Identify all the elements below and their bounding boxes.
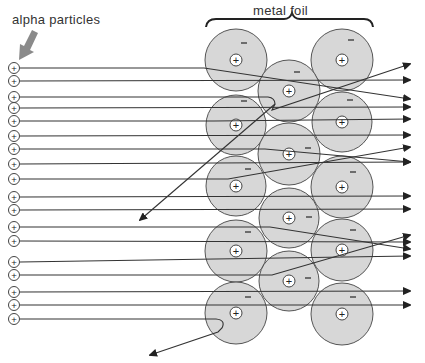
alpha-particle-icon: +: [9, 92, 20, 103]
atom: +: [311, 283, 373, 345]
atom: +: [206, 95, 266, 155]
svg-text:+: +: [286, 85, 292, 97]
atom: +: [206, 156, 266, 216]
svg-text:+: +: [11, 76, 17, 87]
svg-text:+: +: [11, 116, 17, 127]
svg-text:+: +: [11, 159, 17, 170]
nucleus-icon: +: [283, 85, 295, 97]
alpha-particle-icon: +: [9, 103, 20, 114]
rutherford-scattering-diagram: ++++++++++++++ ++++++++++++++++++ alpha …: [0, 0, 425, 363]
nucleus-icon: +: [336, 308, 348, 320]
alpha-particle-icon: +: [9, 116, 20, 127]
svg-text:+: +: [11, 103, 17, 114]
nucleus-icon: +: [230, 245, 242, 257]
nucleus-icon: +: [230, 180, 242, 192]
metal-foil-atoms: ++++++++++++++: [205, 29, 373, 345]
svg-text:+: +: [11, 257, 17, 268]
svg-text:+: +: [11, 131, 17, 142]
diagram-canvas: ++++++++++++++ ++++++++++++++++++: [0, 0, 425, 363]
alpha-particle-icon: +: [9, 222, 20, 233]
atom: +: [258, 60, 320, 122]
nucleus-icon: +: [283, 275, 295, 287]
alpha-particle-icon: +: [9, 314, 20, 325]
svg-text:+: +: [286, 275, 292, 287]
alpha-particle-icon: +: [9, 300, 20, 311]
svg-text:+: +: [11, 92, 17, 103]
alpha-particle-icon: +: [9, 159, 20, 170]
svg-text:+: +: [339, 308, 345, 320]
svg-text:+: +: [339, 116, 345, 128]
alpha-particles-label: alpha particles: [12, 12, 100, 27]
nucleus-icon: +: [283, 148, 295, 160]
atom: +: [312, 92, 372, 152]
svg-text:+: +: [11, 174, 17, 185]
nucleus-icon: +: [230, 307, 242, 319]
alpha-particle-icon: +: [9, 131, 20, 142]
alpha-particle-icon: +: [9, 192, 20, 203]
svg-text:+: +: [11, 63, 17, 74]
atom: +: [259, 251, 319, 311]
particle-trajectory: [20, 319, 223, 355]
alpha-particles: ++++++++++++++++++: [9, 63, 20, 325]
atom: +: [258, 123, 320, 185]
svg-text:+: +: [11, 300, 17, 311]
alpha-particle-icon: +: [9, 236, 20, 247]
svg-text:+: +: [11, 205, 17, 216]
svg-text:+: +: [339, 54, 345, 66]
nucleus-icon: +: [283, 212, 295, 224]
svg-text:+: +: [233, 54, 239, 66]
alpha-particle-icon: +: [9, 63, 20, 74]
svg-text:+: +: [286, 212, 292, 224]
alpha-particle-icon: +: [9, 76, 20, 87]
metal-foil-label: metal foil: [253, 3, 308, 18]
svg-text:+: +: [11, 236, 17, 247]
svg-text:+: +: [11, 144, 17, 155]
atom: +: [311, 29, 373, 91]
nucleus-icon: +: [336, 181, 348, 193]
svg-text:+: +: [11, 314, 17, 325]
svg-text:+: +: [11, 192, 17, 203]
svg-text:+: +: [339, 181, 345, 193]
nucleus-icon: +: [230, 54, 242, 66]
atom: +: [205, 220, 267, 282]
svg-text:+: +: [11, 270, 17, 281]
pointer-arrow-icon: [19, 30, 38, 60]
svg-text:+: +: [233, 180, 239, 192]
svg-text:+: +: [11, 222, 17, 233]
alpha-particle-icon: +: [9, 270, 20, 281]
svg-text:+: +: [286, 148, 292, 160]
atom: +: [259, 188, 319, 248]
alpha-particle-icon: +: [9, 144, 20, 155]
atom: +: [205, 29, 267, 91]
nucleus-icon: +: [336, 54, 348, 66]
svg-text:+: +: [233, 307, 239, 319]
svg-text:+: +: [233, 245, 239, 257]
nucleus-icon: +: [336, 116, 348, 128]
alpha-particle-icon: +: [9, 287, 20, 298]
atom: +: [311, 219, 373, 281]
alpha-particle-icon: +: [9, 257, 20, 268]
alpha-particle-icon: +: [9, 174, 20, 185]
alpha-particle-icon: +: [9, 205, 20, 216]
svg-text:+: +: [11, 287, 17, 298]
